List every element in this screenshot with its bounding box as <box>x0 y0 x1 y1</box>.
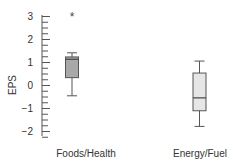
y-axis-title: EPS <box>7 75 18 95</box>
iqr-box <box>66 57 79 78</box>
y-tick-label: −2 <box>22 126 34 137</box>
category-label: Energy/Fuel <box>173 148 227 159</box>
y-tick-label: 1 <box>27 57 33 68</box>
category-label: Foods/Health <box>56 148 115 159</box>
boxes: * <box>66 10 207 126</box>
y-tick-label: 0 <box>27 80 33 91</box>
y-axis: −2−10123 <box>22 11 50 138</box>
iqr-box <box>193 73 206 111</box>
box-foods-health: * <box>66 10 79 96</box>
y-tick-label: 2 <box>27 34 33 45</box>
outlier-marker: * <box>70 10 75 24</box>
box-energy-fuel <box>193 61 206 126</box>
y-tick-label: −1 <box>22 103 34 114</box>
y-tick-label: 3 <box>27 11 33 22</box>
category-labels: Foods/HealthEnergy/Fuel <box>56 148 227 159</box>
boxplot-chart: −2−10123 EPS * Foods/HealthEnergy/Fuel <box>0 0 233 164</box>
